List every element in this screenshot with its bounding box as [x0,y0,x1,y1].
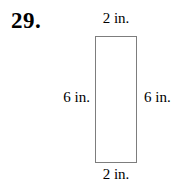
dimension-label-top: 2 in. [80,10,152,27]
dimension-label-left: 6 in. [38,89,90,106]
rectangle-shape [95,36,137,163]
problem-number: 29. [11,8,41,34]
dimension-label-bottom: 2 in. [80,166,152,183]
dimension-label-right: 6 in. [144,89,183,106]
math-problem-figure: 29. 2 in. 6 in. 6 in. 2 in. [0,0,183,188]
